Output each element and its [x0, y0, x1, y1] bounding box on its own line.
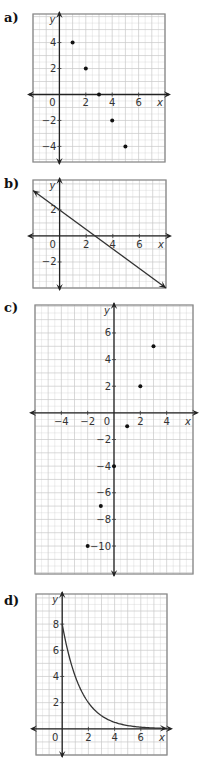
y-tick-label: 4: [53, 671, 59, 682]
x-tick-label: 0: [52, 732, 58, 743]
y-tick-label: 2: [53, 697, 59, 708]
x-tick-label: 6: [138, 732, 144, 743]
x-axis-title: x: [158, 732, 165, 743]
y-tick-label: 6: [53, 645, 59, 656]
y-tick-label: 8: [53, 619, 59, 630]
x-tick-label: 2: [85, 732, 91, 743]
y-axis-title: y: [51, 594, 59, 605]
graph-d: xy02468642: [0, 0, 199, 773]
x-tick-label: 4: [111, 732, 117, 743]
